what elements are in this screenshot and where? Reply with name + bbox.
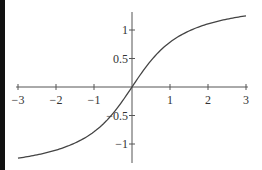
x-tick-label: −2 [50,93,63,107]
y-tick-label: 0.5 [113,52,128,66]
x-tick-label: 3 [243,93,249,107]
arctan-chart: −3−2−1123 10.5−0.5−1 [0,0,262,170]
x-tick-label: 1 [167,93,173,107]
y-tick-label: 1 [122,23,128,37]
y-tick-label: −0.5 [106,109,128,123]
y-tick-label: −1 [115,137,128,151]
x-tick-label: −3 [12,93,25,107]
x-tick-label: 2 [205,93,211,107]
x-tick-label: −1 [88,93,101,107]
